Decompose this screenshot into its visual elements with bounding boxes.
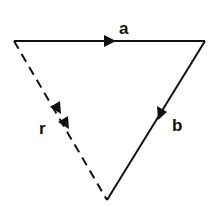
- label-r: r: [39, 119, 46, 138]
- vector-a: [14, 35, 205, 47]
- vector-triangle-diagram: a b r: [0, 0, 214, 207]
- arrowhead-r2-icon: [58, 116, 69, 129]
- label-a: a: [119, 19, 129, 38]
- arrowhead-b-icon: [157, 106, 167, 120]
- vector-r: [14, 41, 107, 200]
- arrowhead-a-icon: [104, 35, 116, 47]
- vector-b: [107, 41, 205, 200]
- label-b: b: [172, 116, 182, 135]
